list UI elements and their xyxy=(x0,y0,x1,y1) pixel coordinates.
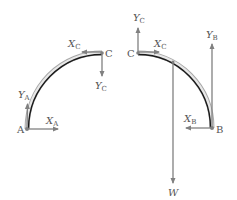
force-yc-right-label: YC xyxy=(133,12,145,25)
member-ac-core xyxy=(29,55,103,130)
force-xc-left-label: XC xyxy=(67,38,80,51)
force-ya-label: YA xyxy=(18,89,31,102)
free-body-diagram: A XA YA XC YC C C YC XC W YB XB B xyxy=(0,0,237,200)
point-c-right-label: C xyxy=(127,48,135,59)
force-xc-right-label: XC xyxy=(153,38,166,51)
force-ya-arrow xyxy=(27,104,28,128)
point-c-left-label: C xyxy=(105,48,113,59)
member-ac xyxy=(27,53,102,129)
force-yb-label: YB xyxy=(206,29,218,42)
member-cb-core xyxy=(138,55,211,129)
force-xa-label: XA xyxy=(45,115,59,128)
member-cb xyxy=(138,53,212,128)
force-xb-label: XB xyxy=(183,113,196,126)
force-yc-left-label: YC xyxy=(95,80,107,93)
point-b-label: B xyxy=(216,124,223,135)
point-a-label: A xyxy=(16,124,25,135)
force-w-label: W xyxy=(168,187,179,198)
